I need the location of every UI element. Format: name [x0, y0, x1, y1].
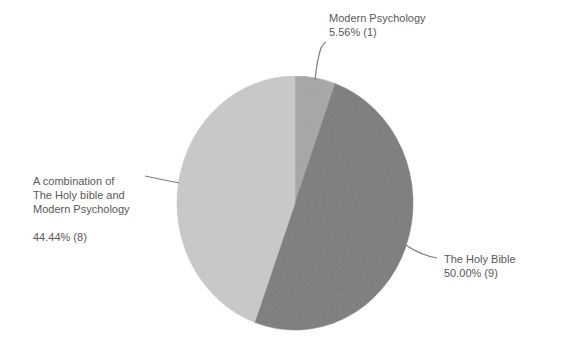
slice-label-modern-psychology: Modern Psychology 5.56% (1) — [329, 11, 426, 39]
pie-slices — [177, 76, 413, 330]
slice-label-holy-bible: The Holy Bible 50.00% (9) — [444, 252, 516, 280]
slice-label-combination: A combination of The Holy bible and Mode… — [33, 174, 130, 244]
slice-name-line-2: The Holy bible and — [33, 188, 130, 202]
slice-value: 50.00% (9) — [444, 266, 516, 280]
slice-value: 44.44% (8) — [33, 230, 130, 244]
slice-value: 5.56% (1) — [329, 25, 426, 39]
spacer — [33, 216, 130, 230]
leader-line-modern-psychology — [315, 42, 326, 80]
slice-name-line-1: A combination of — [33, 174, 130, 188]
slice-name: The Holy Bible — [444, 252, 516, 266]
slice-name-line-3: Modern Psychology — [33, 202, 130, 216]
leader-line-holy-bible — [406, 245, 437, 258]
leader-line-combination — [145, 176, 179, 183]
slice-name: Modern Psychology — [329, 11, 426, 25]
